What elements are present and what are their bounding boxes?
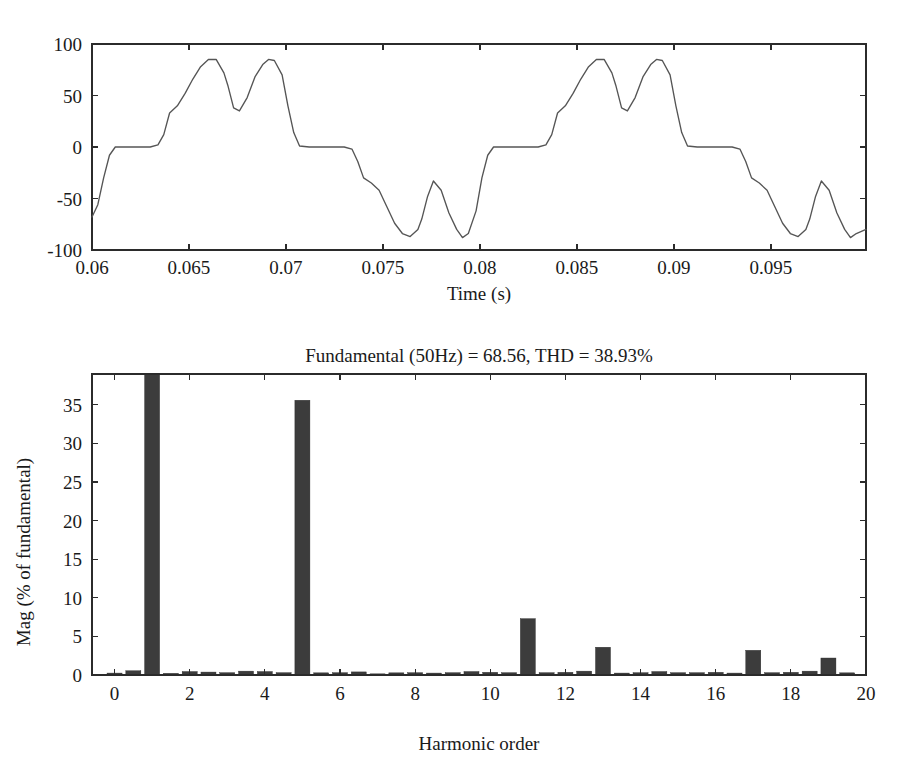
- spectrum-bar: [520, 619, 535, 675]
- waveform-svg: 0.060.0650.070.0750.080.0850.090.095-100…: [0, 0, 904, 320]
- waveform-plot-box: [92, 44, 866, 250]
- spectrum-y-tick-label: 10: [63, 588, 82, 609]
- spectrum-x-tick-label: 8: [410, 683, 420, 704]
- waveform-x-tick-label: 0.08: [463, 257, 496, 278]
- spectrum-y-axis-title: Mag (% of fundamental): [13, 458, 35, 646]
- spectrum-y-tick-label: 0: [73, 665, 83, 686]
- waveform-x-axis-title: Time (s): [447, 283, 511, 305]
- spectrum-bars: [107, 370, 855, 675]
- harmonic-spectrum-chart: Fundamental (50Hz) = 68.56, THD = 38.93%…: [0, 320, 904, 772]
- waveform-x-tick-label: 0.085: [556, 257, 599, 278]
- spectrum-bar: [295, 400, 310, 675]
- spectrum-bar: [595, 647, 610, 675]
- spectrum-x-tick-label: 0: [110, 683, 120, 704]
- spectrum-bar-group: [107, 370, 855, 675]
- spectrum-x-tick-label: 18: [781, 683, 800, 704]
- spectrum-plot-box: [92, 374, 866, 675]
- waveform-y-tick-label: 50: [63, 86, 82, 107]
- spectrum-y-tick-label: 5: [73, 626, 83, 647]
- spectrum-x-tick-label: 6: [335, 683, 345, 704]
- spectrum-y-tick-label: 25: [63, 472, 82, 493]
- spectrum-x-tick-label: 12: [556, 683, 575, 704]
- waveform-chart: 0.060.0650.070.0750.080.0850.090.095-100…: [0, 0, 904, 320]
- waveform-tick-labels: 0.060.0650.070.0750.080.0850.090.095-100…: [47, 34, 792, 278]
- waveform-x-tick-label: 0.075: [362, 257, 405, 278]
- spectrum-bar: [746, 650, 761, 675]
- spectrum-bar: [821, 658, 836, 675]
- spectrum-x-tick-label: 16: [706, 683, 725, 704]
- spectrum-x-axis-title: Harmonic order: [419, 733, 540, 754]
- waveform-x-tick-label: 0.065: [168, 257, 211, 278]
- waveform-y-tick-label: 0: [73, 137, 83, 158]
- spectrum-axes: [92, 374, 866, 675]
- spectrum-x-tick-label: 2: [185, 683, 195, 704]
- spectrum-x-tick-label: 10: [481, 683, 500, 704]
- spectrum-x-tick-label: 14: [631, 683, 651, 704]
- spectrum-y-tick-label: 20: [63, 511, 82, 532]
- spectrum-y-tick-label: 15: [63, 549, 82, 570]
- waveform-x-tick-label: 0.095: [750, 257, 793, 278]
- spectrum-y-tick-label: 30: [63, 433, 82, 454]
- waveform-x-tick-label: 0.07: [269, 257, 302, 278]
- spectrum-bar: [145, 370, 160, 675]
- spectrum-chart-title: Fundamental (50Hz) = 68.56, THD = 38.93%: [305, 345, 653, 367]
- waveform-axes: [92, 44, 866, 250]
- waveform-signal-line: [92, 59, 866, 237]
- waveform-y-tick-label: -50: [57, 189, 82, 210]
- spectrum-x-tick-label: 20: [857, 683, 876, 704]
- spectrum-y-tick-label: 35: [63, 395, 82, 416]
- waveform-x-tick-label: 0.09: [657, 257, 690, 278]
- spectrum-svg: Fundamental (50Hz) = 68.56, THD = 38.93%…: [0, 320, 904, 772]
- harmonic-analysis-figure: 0.060.0650.070.0750.080.0850.090.095-100…: [0, 0, 904, 772]
- spectrum-x-tick-label: 4: [260, 683, 270, 704]
- waveform-y-tick-label: 100: [54, 34, 83, 55]
- waveform-y-tick-label: -100: [47, 240, 82, 261]
